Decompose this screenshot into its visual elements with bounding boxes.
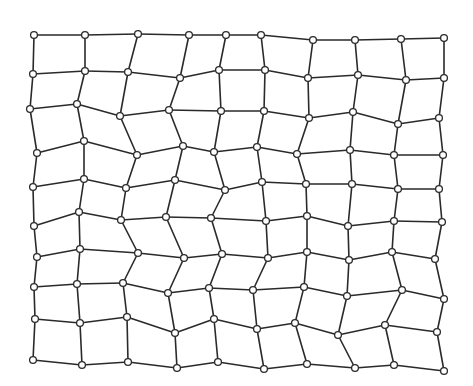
vertical-edge xyxy=(127,317,128,362)
mesh-node xyxy=(123,185,130,192)
mesh-node xyxy=(263,218,270,225)
mesh-node xyxy=(398,36,405,43)
horizontal-edge xyxy=(394,221,442,222)
mesh-node xyxy=(180,143,187,150)
horizontal-edge xyxy=(166,217,211,218)
mesh-node xyxy=(118,217,125,224)
mesh-node xyxy=(77,246,84,253)
mesh-node xyxy=(432,256,439,263)
mesh-node xyxy=(439,219,446,226)
mesh-node xyxy=(82,68,89,75)
mesh-node xyxy=(261,366,268,373)
mesh-node xyxy=(219,251,226,258)
mesh-node xyxy=(172,177,179,184)
mesh-node xyxy=(34,150,41,157)
vertical-edge xyxy=(33,35,34,74)
vertical-edge xyxy=(348,226,349,260)
mesh-node xyxy=(34,254,41,261)
mesh-node xyxy=(135,250,142,257)
mesh-node xyxy=(32,316,39,323)
mesh-node xyxy=(304,213,311,220)
mesh-node xyxy=(436,186,443,193)
mesh-node xyxy=(181,255,188,262)
mesh-node xyxy=(352,365,359,372)
mesh-node xyxy=(355,72,362,79)
horizontal-edge xyxy=(85,34,138,35)
mesh-node xyxy=(82,32,89,39)
vertical-edge xyxy=(306,184,307,216)
mesh-node xyxy=(441,296,448,303)
mesh-node xyxy=(117,113,124,120)
vertical-edge xyxy=(34,287,35,319)
mesh-node xyxy=(349,181,356,188)
mesh-node xyxy=(304,249,311,256)
mesh-node xyxy=(395,121,402,128)
mesh-node xyxy=(74,101,81,108)
mesh-node xyxy=(306,115,313,122)
mesh-node xyxy=(254,144,261,151)
mesh-node xyxy=(165,290,172,297)
horizontal-edge xyxy=(77,283,123,284)
mesh-node xyxy=(335,332,342,339)
mesh-node xyxy=(135,31,142,38)
mesh-node xyxy=(344,293,351,300)
mesh-node xyxy=(79,362,86,369)
mesh-node xyxy=(391,362,398,369)
mesh-node xyxy=(216,67,223,74)
mesh-node xyxy=(254,326,261,333)
mesh-node xyxy=(125,69,132,76)
mesh-node xyxy=(436,115,443,122)
mesh-node xyxy=(211,149,218,156)
mesh-node xyxy=(31,32,38,39)
mesh-node xyxy=(382,322,389,329)
mesh-node xyxy=(304,361,311,368)
mesh-node xyxy=(350,109,357,116)
mesh-node xyxy=(441,75,448,82)
mesh-node xyxy=(208,215,215,222)
mesh-node xyxy=(262,67,269,74)
mesh-node xyxy=(81,138,88,145)
mesh-node xyxy=(163,214,170,221)
vertical-edge xyxy=(33,187,34,226)
mesh-node xyxy=(434,329,441,336)
mesh-node xyxy=(265,255,272,262)
mesh-node xyxy=(211,316,218,323)
mesh-node xyxy=(391,218,398,225)
mesh-node xyxy=(303,181,310,188)
mesh-node xyxy=(206,285,213,292)
vertical-edge xyxy=(308,78,309,118)
mesh-node xyxy=(30,71,37,78)
horizontal-edge xyxy=(138,34,189,35)
mesh-node xyxy=(261,108,268,115)
mesh-node xyxy=(177,75,184,82)
mesh-node xyxy=(172,330,179,337)
mesh-node xyxy=(403,77,410,84)
horizontal-edge xyxy=(401,38,444,39)
mesh-node xyxy=(134,152,141,159)
mesh-node xyxy=(301,284,308,291)
deformed-grid-diagram xyxy=(0,0,473,386)
mesh-node xyxy=(120,280,127,287)
mesh-node xyxy=(305,75,312,82)
horizontal-edge xyxy=(169,110,221,111)
mesh-node xyxy=(310,37,317,44)
mesh-node xyxy=(31,284,38,291)
mesh-node xyxy=(292,320,299,327)
mesh-node xyxy=(250,287,257,294)
mesh-node xyxy=(441,368,448,375)
vertical-edge xyxy=(79,212,80,249)
mesh-node xyxy=(74,281,81,288)
mesh-node xyxy=(218,108,225,115)
mesh-node xyxy=(223,32,230,39)
mesh-node xyxy=(352,37,359,44)
mesh-node xyxy=(391,152,398,159)
horizontal-edge xyxy=(85,71,128,72)
mesh-node xyxy=(440,152,447,159)
mesh-node xyxy=(77,320,84,327)
mesh-node xyxy=(399,287,406,294)
mesh-node xyxy=(346,257,353,264)
mesh-node xyxy=(222,187,229,194)
mesh-node xyxy=(76,209,83,216)
mesh-node xyxy=(124,314,131,321)
mesh-node xyxy=(347,147,354,154)
